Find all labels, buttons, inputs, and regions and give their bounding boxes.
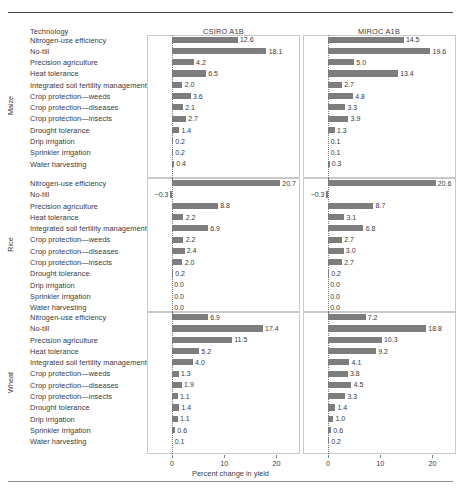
technology-label: Water harvesting — [30, 160, 86, 169]
bar — [172, 225, 208, 231]
bar-value-label: 4.5 — [354, 381, 364, 388]
x-axis-tick — [172, 455, 173, 458]
x-axis-tick-label: 10 — [212, 459, 236, 468]
bar-value-label: 4.1 — [352, 359, 362, 366]
bar-value-label: 8.8 — [220, 202, 230, 209]
bar-value-label: 0.0 — [330, 281, 340, 288]
technology-label: Integrated soil fertility management — [30, 81, 147, 90]
bar — [328, 359, 349, 365]
bar — [328, 104, 345, 110]
crop-group-label-maize: Maize — [6, 76, 15, 136]
bar-value-label: 0.2 — [175, 149, 185, 156]
bar-value-label: 0.6 — [177, 427, 187, 434]
bar-value-label: 0.0 — [174, 293, 184, 300]
technology-label: Heat tolerance — [30, 213, 79, 222]
bar-value-label: 1.4 — [338, 404, 348, 411]
x-axis-tick — [432, 455, 433, 458]
bar-value-label: 9.2 — [378, 348, 388, 355]
bar-value-label: 2.7 — [344, 259, 354, 266]
x-axis-title: Percent change in yield — [0, 469, 461, 478]
bar-value-label: 0.4 — [176, 160, 186, 167]
x-axis-tick — [224, 455, 225, 458]
zero-baseline — [172, 178, 173, 312]
bar — [172, 393, 178, 399]
panel-wheat-csiro — [147, 312, 300, 454]
x-axis-tick — [276, 455, 277, 458]
bar — [172, 314, 208, 320]
bar — [172, 337, 232, 343]
technology-label: Nitrogen-use efficiency — [30, 179, 106, 188]
bar — [328, 70, 398, 76]
bar — [328, 82, 342, 88]
figure-top-rule — [8, 12, 453, 13]
technology-label: Crop protection—weeds — [30, 92, 110, 101]
bar — [328, 382, 351, 388]
technology-label: Crop protection—diseases — [30, 103, 118, 112]
technology-label: Crop protection—diseases — [30, 247, 118, 256]
x-axis-tick-label: 20 — [264, 459, 288, 468]
technology-label: Integrated soil fertility management — [30, 358, 147, 367]
bar — [328, 416, 333, 422]
chart-figure: Technology CSIRO A1B MIROC A1B MaizeNitr… — [0, 0, 461, 493]
technology-label: Drought tolerance — [30, 269, 90, 278]
bar — [172, 59, 194, 65]
bar — [172, 82, 182, 88]
x-axis-tick-label: 0 — [316, 459, 340, 468]
bar — [172, 70, 206, 76]
bar-value-label: 18.1 — [269, 48, 283, 55]
bar — [172, 138, 173, 144]
panel-maize-miroc — [303, 35, 456, 178]
bar-value-label: 4.8 — [355, 93, 365, 100]
bar — [328, 93, 353, 99]
bar-value-label: 4.0 — [195, 359, 205, 366]
bar-value-label: 3.0 — [346, 247, 356, 254]
bar — [328, 48, 430, 54]
bar-value-label: 0.1 — [331, 138, 341, 145]
bar — [172, 180, 280, 186]
bar — [172, 203, 218, 209]
x-axis-tick-label: 20 — [420, 459, 444, 468]
x-axis-tick-label: 0 — [160, 459, 184, 468]
bar — [172, 259, 182, 265]
technology-label: Crop protection—diseases — [30, 381, 118, 390]
bar-value-label: 2.2 — [186, 214, 196, 221]
bar-value-label: 3.6 — [193, 93, 203, 100]
technology-label: Crop protection—weeds — [30, 369, 110, 378]
bar-value-label: 4.2 — [196, 59, 206, 66]
bar-value-label: 8.7 — [376, 202, 386, 209]
bar — [328, 270, 329, 276]
bar-value-label: 2.7 — [344, 236, 354, 243]
panel-rice-miroc — [303, 178, 456, 312]
bar-value-label: 0.2 — [175, 138, 185, 145]
bar — [328, 438, 329, 444]
bar-value-label: 3.3 — [347, 393, 357, 400]
bar-value-label: 1.4 — [182, 404, 192, 411]
technology-label: Heat tolerance — [30, 69, 79, 78]
bar — [172, 270, 173, 276]
bar-value-label: 5.2 — [201, 348, 211, 355]
bar-value-label: 3.8 — [350, 370, 360, 377]
technology-label: Crop protection—weeds — [30, 235, 110, 244]
bar — [172, 325, 263, 331]
bar — [172, 48, 266, 54]
bar-value-label: 0.0 — [330, 304, 340, 311]
technology-label: Crop protection—insects — [30, 258, 112, 267]
zero-baseline — [328, 178, 329, 312]
technology-label: Sprinkler irrigation — [30, 292, 91, 301]
bar — [172, 371, 179, 377]
bar-value-label: 5.0 — [356, 59, 366, 66]
bar — [172, 427, 175, 433]
bar — [328, 237, 342, 243]
bar — [328, 314, 366, 320]
bar-value-label: 0.3 — [332, 160, 342, 167]
bar — [326, 191, 328, 197]
technology-label: Crop protection—insects — [30, 392, 112, 401]
bar-value-label: 14.5 — [406, 36, 420, 43]
bar — [172, 348, 199, 354]
x-axis-tick — [380, 455, 381, 458]
bar-value-label: 1.3 — [337, 127, 347, 134]
bar — [328, 127, 335, 133]
bar-value-label: 18.8 — [428, 325, 442, 332]
panel-rice-csiro — [147, 178, 300, 312]
panel-wheat-miroc — [303, 312, 456, 454]
